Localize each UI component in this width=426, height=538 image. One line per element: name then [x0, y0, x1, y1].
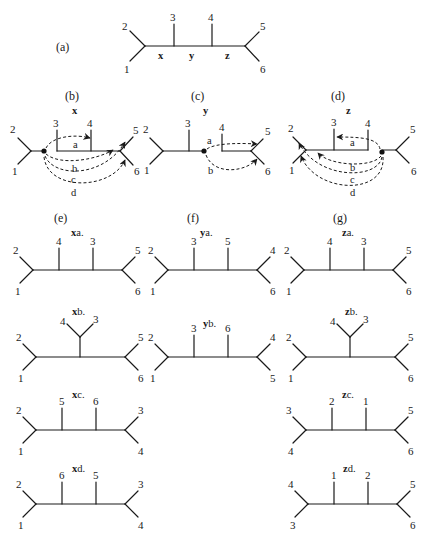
leaf-label: 6: [225, 322, 231, 334]
leaf-edge: [125, 504, 138, 517]
leaf-label: 2: [10, 123, 16, 135]
leaf-edge: [155, 270, 168, 283]
leaf-label: 3: [138, 404, 144, 416]
leaf-label: 6: [265, 165, 271, 177]
leaf-label: 6: [406, 285, 412, 297]
tree-caption: ya.: [200, 227, 213, 238]
leaf-label: 3: [290, 519, 296, 531]
leaf-label: 4: [288, 478, 294, 490]
leaf-edge: [155, 357, 168, 370]
panel-label-g: (g): [333, 211, 347, 225]
leaf-edge: [396, 150, 409, 163]
leaf-label: 3: [191, 235, 197, 247]
leaf-edge: [257, 270, 270, 283]
leaf-label: 4: [365, 117, 371, 129]
move-arrow-a: [207, 144, 257, 149]
leaf-label: 3: [363, 313, 369, 325]
panel-d: (d) z 2 1 3 4 5 6 a b c d: [288, 89, 417, 198]
leaf-label: 4: [56, 235, 62, 247]
leaf-label: 4: [87, 117, 93, 129]
edge-name-y: y: [203, 105, 209, 116]
leaf-label: 6: [270, 285, 276, 297]
leaf-edge: [23, 491, 36, 504]
leaf-label: 6: [59, 469, 65, 481]
leaf-label: 2: [16, 331, 22, 343]
move-label: c: [350, 174, 355, 185]
move-arrow-d: [301, 156, 383, 185]
leaf-edge: [20, 257, 33, 270]
leaf-label: 1: [363, 395, 369, 407]
leaf-label: 5: [410, 478, 416, 490]
edge-label-z: z: [225, 50, 230, 61]
leaf-edge: [291, 270, 304, 283]
leaf-edge: [80, 324, 93, 337]
panel-label-f: (f): [187, 211, 199, 225]
move-label: b: [350, 162, 355, 173]
tree-xc: xc.213456: [16, 389, 144, 457]
tree-caption: xa.: [71, 227, 84, 238]
panel-label-b: (b): [65, 89, 79, 103]
leaf-label: 1: [150, 372, 156, 384]
tree-yb: yb.214536: [148, 318, 276, 384]
move-label: b: [72, 163, 77, 174]
leaf-edge: [23, 417, 36, 430]
leaf-edge: [293, 150, 306, 163]
leaf-label: 6: [410, 519, 416, 531]
move-label: b: [208, 165, 213, 176]
leaf-label: 5: [138, 331, 144, 343]
leaf-label: 1: [286, 285, 292, 297]
move-label: d: [350, 187, 356, 198]
move-label: a: [207, 135, 212, 146]
leaf-label: 3: [185, 117, 191, 129]
leaf-label: 1: [331, 469, 337, 481]
leaf-edge: [23, 430, 36, 443]
leaf-label: 5: [410, 123, 416, 135]
leaf-edge: [245, 32, 259, 46]
leaf-edge: [293, 417, 306, 430]
leaf-label: 2: [329, 395, 335, 407]
leaf-edge: [257, 357, 270, 370]
leaf-edge: [251, 151, 264, 164]
leaf-label: 6: [93, 395, 99, 407]
leaf-edge: [122, 257, 135, 270]
leaf-edge: [397, 491, 410, 504]
move-arrow-c: [299, 143, 382, 173]
panel-b: (b) x 2 1 3 4 5 6 a b c d: [10, 89, 140, 198]
leaf-edge: [125, 344, 138, 357]
leaf-label: 3: [331, 116, 337, 128]
leaf-edge: [130, 46, 145, 61]
leaf-edge: [257, 344, 270, 357]
leaf-label: 6: [411, 165, 417, 177]
tree-caption: za.: [342, 227, 354, 238]
leaf-edge: [150, 151, 163, 164]
leaf-label: 4: [270, 331, 276, 343]
leaf-label: 4: [60, 315, 66, 327]
move-label: a: [350, 137, 355, 148]
leaf-label: 1: [124, 63, 130, 75]
leaf-label: 2: [143, 123, 149, 135]
leaf-label: 4: [219, 121, 225, 133]
tree-xb: xb.215643: [16, 306, 144, 384]
leaf-label: 6: [138, 372, 144, 384]
leaf-edge: [18, 138, 31, 151]
leaf-edge: [120, 151, 133, 165]
leaf-edge: [295, 504, 308, 517]
leaf-edge: [257, 257, 270, 270]
tree-ya: ya.214635: [148, 227, 276, 297]
tree-xa: xa.215643: [13, 227, 141, 297]
tree-caption: yb.: [203, 318, 216, 329]
leaf-edge: [397, 504, 410, 517]
leaf-label: 5: [408, 331, 414, 343]
edge-name-x: x: [72, 105, 78, 116]
leaf-label: 1: [15, 285, 21, 297]
leaf-label: 1: [12, 165, 18, 177]
leaf-label: 3: [286, 404, 292, 416]
leaf-edge: [125, 430, 138, 443]
panel-label-d: (d): [331, 89, 345, 103]
leaf-label: 3: [53, 117, 59, 129]
leaf-edge: [395, 417, 408, 430]
leaf-edge: [23, 344, 36, 357]
leaf-edge: [293, 357, 306, 370]
move-arrow-d: [44, 157, 125, 183]
leaf-label: 3: [93, 313, 99, 325]
